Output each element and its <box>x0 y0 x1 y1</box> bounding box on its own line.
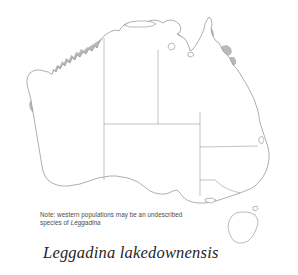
note-line-2: species of Leggadina <box>40 219 222 227</box>
flinders-island-outline <box>253 206 258 211</box>
note-genus-italic: Leggadina <box>71 219 101 226</box>
distribution-map-figure: Note: western populations may be an unde… <box>0 0 298 275</box>
species-name-caption: Leggadina lakedownensis <box>43 243 219 262</box>
tasmania-outline <box>228 212 258 243</box>
coastline-group <box>27 17 269 203</box>
australia-map <box>0 0 298 275</box>
melville-island-outline <box>124 21 156 27</box>
australia-mainland-outline <box>27 17 269 203</box>
note-line-1: Note: western populations may be an unde… <box>40 211 222 219</box>
note-line-2-prefix: species of <box>40 219 71 226</box>
groote-eylandt-outline <box>168 43 175 50</box>
map-note: Note: western populations may be an unde… <box>40 211 222 228</box>
